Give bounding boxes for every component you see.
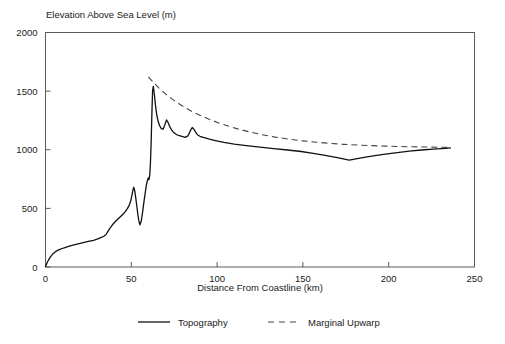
chart-legend: Topography Marginal Upwarp bbox=[138, 317, 380, 328]
y-tick-label: 0 bbox=[32, 262, 37, 273]
x-tick-label: 250 bbox=[467, 273, 483, 284]
elevation-profile-chart: Elevation Above Sea Level (m) 0500100015… bbox=[0, 0, 505, 344]
legend-label-marginal-upwarp: Marginal Upwarp bbox=[308, 317, 380, 328]
series-line-marginal-upwarp bbox=[148, 77, 450, 148]
y-tick-label: 500 bbox=[22, 203, 38, 214]
data-series-layer bbox=[46, 77, 451, 267]
plot-frame bbox=[46, 33, 475, 268]
y-tick-label: 2000 bbox=[16, 27, 37, 38]
x-axis-title: Distance From Coastline (km) bbox=[197, 282, 323, 293]
chart-canvas: Elevation Above Sea Level (m) 0500100015… bbox=[0, 0, 505, 344]
y-tick-label: 1500 bbox=[16, 86, 37, 97]
y-tick-label: 1000 bbox=[16, 144, 37, 155]
x-tick-label: 200 bbox=[381, 273, 397, 284]
y-axis-title: Elevation Above Sea Level (m) bbox=[46, 9, 176, 20]
x-axis-ticks: 050100150200250 bbox=[43, 262, 483, 284]
series-line-topography bbox=[46, 86, 451, 266]
x-tick-label: 50 bbox=[126, 273, 137, 284]
x-tick-label: 0 bbox=[43, 273, 48, 284]
legend-label-topography: Topography bbox=[178, 317, 228, 328]
